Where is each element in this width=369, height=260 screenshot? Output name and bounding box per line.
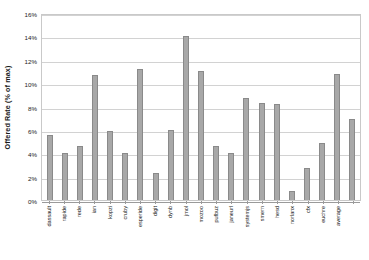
y-axis-tick-label: 10%: [25, 81, 37, 88]
x-axis-tick-label: smern: [259, 206, 265, 221]
bar[interactable]: [213, 146, 219, 200]
y-axis-tick-label: 12%: [25, 57, 37, 64]
x-axis-tick-label: esperide: [137, 206, 143, 227]
x-axis-label-slot: euchre: [315, 204, 330, 260]
bar-slot: [269, 15, 284, 200]
bar[interactable]: [122, 153, 128, 200]
bar[interactable]: [304, 168, 310, 200]
y-axis-tick-label: 4%: [28, 151, 37, 158]
x-axis-label-slot: systemjs: [239, 204, 254, 260]
bar[interactable]: [137, 69, 143, 200]
x-axis-label-slot: rede: [71, 204, 86, 260]
bar-slot: [239, 15, 254, 200]
bar-slot: [330, 15, 345, 200]
y-axis-tick-label: 14%: [25, 34, 37, 41]
y-axis-tick-labels: 0%2%4%6%8%10%12%14%16%: [16, 14, 40, 201]
x-axis-label-slot: mozoo: [193, 204, 208, 260]
bar[interactable]: [259, 103, 265, 200]
bar-slot: [133, 15, 148, 200]
bar[interactable]: [289, 191, 295, 200]
bar-slot: [163, 15, 178, 200]
bar-slot: [315, 15, 330, 200]
x-axis-tick-label: mozoo: [198, 206, 204, 223]
bar[interactable]: [153, 173, 159, 200]
bar-slot: [103, 15, 118, 200]
bar-slot: [148, 15, 163, 200]
x-axis-tick-label: cfx: [305, 206, 311, 213]
x-axis-tick-label: dynb: [167, 206, 173, 218]
x-axis-tick-label: jmol: [183, 206, 189, 216]
bar[interactable]: [77, 146, 83, 200]
y-axis-tick-label: 16%: [25, 11, 37, 18]
bar[interactable]: [198, 71, 204, 200]
y-axis-title-text: Offered Rate (% of max): [4, 66, 13, 150]
x-axis-tick-label: digit: [152, 206, 158, 216]
x-axis-tick-label: systemjs: [244, 206, 250, 227]
bar-slot: [57, 15, 72, 200]
bar[interactable]: [168, 130, 174, 200]
bar-slot: [178, 15, 193, 200]
x-axis-label-slot: janeurl: [224, 204, 239, 260]
y-axis-title: Offered Rate (% of max): [0, 0, 16, 215]
x-axis-tick-labels: dassaultrapideredeiankopzicrubyesperided…: [41, 204, 361, 260]
bar[interactable]: [62, 153, 68, 200]
x-axis-tick-label: kopzi: [107, 206, 113, 219]
bar-slot: [254, 15, 269, 200]
y-axis-tick-label: 6%: [28, 127, 37, 134]
x-axis-label-slot: rapide: [56, 204, 71, 260]
x-axis-label-slot: [346, 204, 361, 260]
y-axis-tick-label: 2%: [28, 174, 37, 181]
x-axis-tick-label: rapide: [61, 206, 67, 221]
bar-slot: [118, 15, 133, 200]
x-axis-label-slot: digit: [148, 204, 163, 260]
bar[interactable]: [47, 135, 53, 200]
x-axis-tick-label: cruby: [122, 206, 128, 219]
bar-slot: [87, 15, 102, 200]
bar[interactable]: [228, 153, 234, 200]
bar[interactable]: [183, 36, 189, 200]
x-axis-label-slot: dassault: [41, 204, 56, 260]
x-axis-tick-label: hesd: [274, 206, 280, 218]
x-axis-label-slot: cruby: [117, 204, 132, 260]
x-axis-label-slot: smern: [254, 204, 269, 260]
x-axis-tick-label: rede: [76, 206, 82, 217]
bars-layer: [42, 15, 360, 200]
bar[interactable]: [107, 131, 113, 200]
bar[interactable]: [274, 104, 280, 200]
bar-slot: [209, 15, 224, 200]
bar-slot: [72, 15, 87, 200]
bar-slot: [345, 15, 360, 200]
bar-slot: [299, 15, 314, 200]
bar[interactable]: [92, 75, 98, 200]
x-axis-tick-label: janeurl: [228, 206, 234, 222]
plot-area: [41, 14, 361, 201]
bar[interactable]: [349, 119, 355, 200]
x-axis-label-slot: ian: [87, 204, 102, 260]
x-axis-tick-label: average: [335, 206, 341, 226]
y-axis-tick-label: 8%: [28, 104, 37, 111]
bar-slot: [284, 15, 299, 200]
x-axis-tick-label: euchre: [320, 206, 326, 223]
bar-slot: [193, 15, 208, 200]
x-axis-tick-label: norlanx: [289, 206, 295, 224]
bar[interactable]: [319, 143, 325, 200]
x-axis-label-slot: esperide: [132, 204, 147, 260]
y-axis-tick-label: 0%: [28, 198, 37, 205]
bar-slot: [224, 15, 239, 200]
x-axis-label-slot: cfx: [300, 204, 315, 260]
bar-chart: Offered Rate (% of max) 0%2%4%6%8%10%12%…: [0, 0, 369, 260]
x-axis-tick-label: pufbuz: [213, 206, 219, 223]
x-axis-label-slot: dynb: [163, 204, 178, 260]
x-axis-label-slot: norlanx: [285, 204, 300, 260]
x-axis-label-slot: kopzi: [102, 204, 117, 260]
x-axis-label-slot: average: [330, 204, 345, 260]
x-axis-tick-label: dassault: [46, 206, 52, 226]
x-axis-tick-label: ian: [91, 206, 97, 213]
bar-slot: [42, 15, 57, 200]
bar[interactable]: [334, 74, 340, 200]
x-axis-label-slot: hesd: [270, 204, 285, 260]
x-axis-label-slot: jmol: [178, 204, 193, 260]
x-axis-label-slot: pufbuz: [209, 204, 224, 260]
bar[interactable]: [243, 98, 249, 200]
